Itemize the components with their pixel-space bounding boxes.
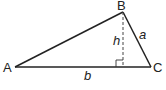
side-bc [123,12,151,67]
right-angle-marker [116,60,123,67]
altitude-label-h: h [113,33,120,48]
side-label-b: b [84,68,91,83]
side-ab [15,12,123,67]
vertex-label-b: B [117,0,126,13]
triangle-diagram: A B C a b h [0,0,166,90]
vertex-label-a: A [3,60,12,75]
vertex-label-c: C [153,60,162,75]
side-label-a: a [139,27,146,42]
